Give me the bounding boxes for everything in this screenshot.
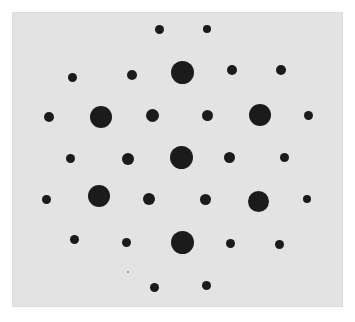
strong-reflection-spot — [171, 61, 194, 84]
weak-reflection-spot — [226, 239, 235, 248]
weak-reflection-spot — [200, 194, 211, 205]
weak-reflection-spot — [143, 193, 155, 205]
strong-reflection-spot — [170, 146, 193, 169]
strong-reflection-spot — [90, 106, 112, 128]
weak-reflection-spot — [122, 153, 134, 165]
weak-reflection-spot — [155, 25, 164, 34]
weak-reflection-spot — [276, 65, 286, 75]
weak-reflection-spot — [227, 65, 237, 75]
weak-reflection-spot — [42, 195, 51, 204]
weak-reflection-spot — [203, 25, 211, 33]
weak-reflection-spot — [224, 152, 235, 163]
strong-reflection-spot — [171, 231, 194, 254]
weak-reflection-spot — [127, 70, 137, 80]
strong-reflection-spot — [248, 191, 269, 212]
weak-reflection-spot — [280, 153, 289, 162]
weak-reflection-spot — [66, 154, 75, 163]
weak-reflection-spot — [122, 238, 131, 247]
strong-reflection-spot — [249, 104, 271, 126]
weak-reflection-spot — [202, 281, 211, 290]
weak-reflection-spot — [150, 283, 159, 292]
weak-reflection-spot — [70, 235, 79, 244]
weak-reflection-spot — [146, 109, 159, 122]
strong-reflection-spot — [88, 185, 110, 207]
weak-reflection-spot — [68, 73, 77, 82]
weak-reflection-spot — [202, 110, 213, 121]
weak-reflection-spot — [275, 240, 284, 249]
weak-reflection-spot — [44, 112, 54, 122]
weak-reflection-spot — [303, 195, 311, 203]
dust-speck — [127, 271, 129, 273]
weak-reflection-spot — [304, 111, 313, 120]
